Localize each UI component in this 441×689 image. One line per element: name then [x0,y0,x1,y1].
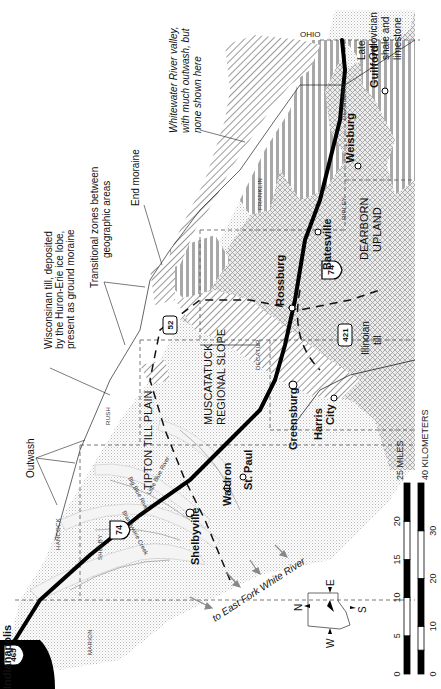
annotation-wisconsinan-3: present as ground moraine [65,229,76,349]
us-421-shield[interactable]: 421 [338,324,352,346]
scale-bar-miles: 05101520 [392,483,410,677]
compass-s: S [357,606,368,613]
county-label-hancock: HANCOCK [55,518,61,550]
us-52-shield[interactable]: 52 [163,316,177,334]
town-label-greensburg: Greensburg [287,388,299,450]
scale-km-tick: 30 [428,526,438,536]
interstate-74-shield[interactable]: 74 [110,521,130,539]
region-label-tipton: TIPTON TILL PLAIN [142,391,154,490]
state-label-ohio: OHIO [300,30,320,39]
annotation-transitional-2: geographic areas [101,181,112,258]
annotation-ordovician-2: Ordovician [368,12,379,60]
region-label-muscatatuck-1: MUSCATATUCK [202,343,214,425]
town-label-batesville: Batesville [321,219,333,270]
town-label-harris-city-1: Harris [312,408,324,440]
shield-label: 74 [114,525,124,535]
scale-km-tick: 10 [428,621,438,631]
scale-km-segment [418,579,424,627]
scale-miles-segment [404,636,410,674]
scale-km-segment [418,483,424,531]
shield-label: 52 [166,320,175,329]
annotation-transitional-1: Transitional zones between [89,167,100,288]
town-label-st-paul: St. Paul [242,450,254,490]
annotation-whitewater-2: with much outwash, but [180,27,191,133]
annotation-whitewater-1: Whitewater River valley, [168,26,179,133]
town-marker-rossburg [289,305,295,311]
scale-miles-segment [404,598,410,636]
county-label-marion: MARION [87,629,93,655]
compass-w: W [325,638,336,648]
scale-label-km: 40 KILOMETERS [420,409,430,480]
annotation-illinoian-2: till [372,336,383,345]
town-marker-harris-city [331,395,337,401]
county-label-franklin: FRANKLIN [257,178,263,210]
scale-km-segment [418,626,424,650]
county-label-dearborn: DEARBORN [341,84,347,120]
scale-miles-tick: 0 [392,671,402,676]
scale-miles-segment [404,559,410,597]
compass-n: N [293,604,304,611]
town-marker-guilford [382,88,388,94]
scale-bar-km: 0102030 [418,483,438,677]
annotation-outwash: Outwash [25,439,36,478]
annotation-whitewater-3: none shown here [192,56,203,133]
scale-miles-tick: 10 [392,593,402,603]
annotation-ordovician-3: shale and [380,17,391,60]
county-label-decatur: DECATUR [255,339,261,370]
city-label-indianapolis: Indianapolis [1,625,13,689]
annotation-illinoian-1: Illinoian [360,321,371,355]
scale-km-segment [418,531,424,579]
scale-km-tick: 0 [428,671,438,676]
annotation-ordovician-1: Late [356,40,367,60]
scale-km-segment [418,650,424,674]
county-label-rush: RUSH [105,407,111,425]
annotation-wisconsinan-2: by the Huron-Erie ice lobe, [54,231,65,349]
town-label-shelbyville: Shelbyville [189,508,201,565]
scale-miles-tick: 20 [392,516,402,526]
scale-miles-segment [404,483,410,521]
end-moraine-leader [144,205,162,265]
scale-miles-tick: 15 [392,554,402,564]
region-label-muscatatuck-2: REGIONAL SLOPE [215,329,227,425]
county-label-ripley: RIPLEY [341,197,347,220]
scale-miles-tick: 5 [392,633,402,638]
annotation-ordovician-4: limestone [392,17,403,60]
scale-label-miles: 25 MILES [395,440,405,480]
town-label-waldron: Waldron [221,462,233,506]
town-label-harris-city-2: City [324,403,336,425]
wisconsinan-leader [50,368,110,395]
town-label-rossburg: Rossburg [274,255,286,306]
compass-rose: N E S W [293,579,368,648]
region-label-dearborn-1: DEARBORN [358,198,370,260]
compass-e: E [325,579,336,586]
county-label-shelby: SHELBY [97,535,103,560]
end-moraine-band [150,260,175,305]
shield-label: 421 [341,328,350,342]
annotation-end-moraine: End moraine [130,149,141,206]
geologic-map: 465 74 74 52 421 Shelbyville Waldron St.… [0,0,441,689]
region-label-dearborn-2: UPLAND [371,207,383,252]
scale-km-tick: 20 [428,573,438,583]
annotation-wisconsinan-1: Wisconsinan till, deposited [43,231,54,349]
transitional-leaders [104,282,145,345]
scale-miles-segment [404,521,410,559]
